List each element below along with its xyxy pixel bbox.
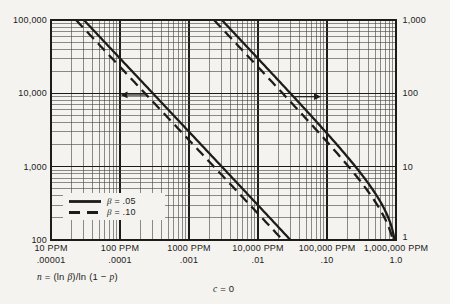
legend-label-beta-05: β = .05 [107,197,136,206]
right-axis-tick-label: 100 [403,88,419,98]
x-axis-ppm-tick-label: 100 PPM [101,243,139,253]
x-axis-fraction-tick-label: .01 [251,255,264,265]
legend-value: = .05 [112,196,136,206]
x-axis-fraction-tick-label: .0001 [108,255,132,265]
curve-beta-10-right [214,20,393,240]
chart-canvas: 100,00010,0001,0001001,00010010110 PPM.0… [0,0,450,304]
x-axis-fraction-tick-label: 1.0 [389,255,402,265]
legend: β = .05 β = .10 [63,193,165,220]
dashed-line-sample-icon [68,209,102,216]
left-axis-tick-label: 1,000 [23,162,47,172]
x-axis-ppm-tick-label: 1000 PPM [167,243,211,253]
legend-value: = .10 [112,207,136,217]
right-axis-tick-label: 10 [403,162,413,172]
x-axis-ppm-tick-label: 10 PPM [34,243,67,253]
right-arrowhead-icon [314,93,321,100]
x-axis-fraction-tick-label: .00001 [37,255,66,265]
formula-text: = (ln [42,271,67,282]
right-axis-tick-label: 1 [403,232,408,242]
legend-label-beta-10: β = .10 [107,208,136,217]
legend-item-beta-05: β = .05 [68,196,162,207]
left-arrowhead-icon [121,92,128,99]
formula-text: )/ln (1 − [72,271,109,282]
legend-item-beta-10: β = .10 [68,207,162,218]
x-axis-fraction-tick-label: .10 [320,255,333,265]
x-axis-ppm-tick-label: 1,000,000 PPM [364,243,429,253]
solid-line-sample-icon [68,198,102,205]
x-axis-fraction-tick-label: .001 [180,255,198,265]
formula-text: = 0 [217,283,234,294]
x-axis-ppm-tick-label: 10,000 PPM [232,243,284,253]
right-axis-tick-label: 1,000 [403,15,427,25]
x-axis-ppm-tick-label: 100,000 PPM [299,243,356,253]
left-axis-tick-label: 100,000 [13,15,47,25]
sampling-plan-nomograph: 100,00010,0001,0001001,00010010110 PPM.0… [0,0,450,304]
sample-size-formula: n = (ln β)/ln (1 − p) [37,271,118,282]
acceptance-number-annotation: c = 0 [213,283,234,294]
formula-text: ) [114,271,117,282]
left-axis-tick-label: 10,000 [18,88,47,98]
